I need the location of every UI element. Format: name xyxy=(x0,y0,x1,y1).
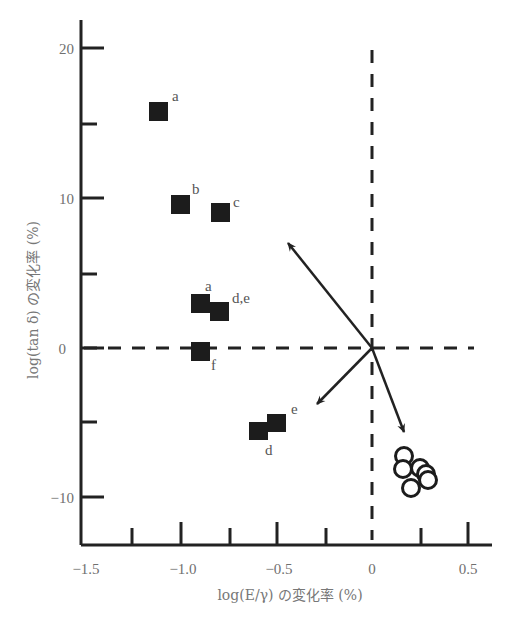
point-de xyxy=(210,302,229,321)
x-axis-title: log(E/γ) の変化率 (%) xyxy=(217,587,362,603)
arrow-down-right xyxy=(372,348,404,432)
circle-point xyxy=(395,461,412,478)
circle-point xyxy=(420,472,437,489)
x-tick-label-m10: −1.0 xyxy=(169,561,196,577)
point-d xyxy=(249,422,268,440)
point-label-de: d,e xyxy=(232,290,250,306)
y-axis xyxy=(81,20,104,545)
point-c xyxy=(211,203,230,222)
point-label-d: d xyxy=(265,442,273,458)
point-label-a2: a xyxy=(205,278,212,294)
point-label-f: f xyxy=(211,357,216,373)
series-filled-squares xyxy=(149,102,286,440)
arrow-down-left xyxy=(317,348,372,404)
point-label-b: b xyxy=(192,181,200,197)
point-a1 xyxy=(149,102,168,121)
point-label-a1: a xyxy=(172,88,179,104)
arrow-up-left xyxy=(288,243,372,348)
point-a2 xyxy=(191,294,210,313)
point-e xyxy=(267,414,286,432)
vector-arrows xyxy=(288,243,404,432)
point-f xyxy=(191,342,210,361)
point-label-e: e xyxy=(291,401,298,417)
point-b xyxy=(171,195,190,214)
scatter-chart: 20 10 0 −10 −1.5 −1.0 −0.5 0 0.5 log(E/γ… xyxy=(0,0,512,618)
x-tick-label-m05: −0.5 xyxy=(265,561,292,577)
x-tick-label-m15: −1.5 xyxy=(72,561,99,577)
x-tick-label-0: 0 xyxy=(368,561,376,577)
y-tick-label-20: 20 xyxy=(59,41,74,57)
series-open-circles xyxy=(395,448,437,497)
x-tick-label-05: 0.5 xyxy=(459,561,478,577)
point-label-c: c xyxy=(233,194,240,210)
x-axis xyxy=(81,522,492,545)
y-tick-label-m10: −10 xyxy=(51,490,74,506)
y-tick-label-10: 10 xyxy=(59,191,74,207)
y-tick-label-0: 0 xyxy=(59,341,67,357)
y-axis-title: log(tan δ) の変化率 (%) xyxy=(25,221,41,379)
circle-point xyxy=(403,480,420,497)
